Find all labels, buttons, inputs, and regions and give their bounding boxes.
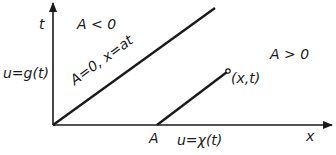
t-axis-label: t [39, 17, 45, 31]
region-upper-label: A < 0 [77, 17, 116, 31]
left-boundary-condition: u=g(t) [3, 66, 49, 80]
bottom-boundary-condition: u=χ(t) [177, 133, 222, 147]
point-xt-label: (x,t) [231, 71, 260, 85]
point-xt-marker [226, 69, 230, 73]
x-axis-label: x [306, 129, 314, 143]
region-lower-label: A > 0 [270, 47, 309, 61]
characteristics-diagram: t x A < 0 A > 0 u=g(t) u=χ(t) A (x,t) A=… [0, 0, 336, 155]
point-A-label: A [149, 131, 159, 145]
diagram-lines [0, 0, 336, 155]
characteristic-from-A [157, 72, 227, 125]
